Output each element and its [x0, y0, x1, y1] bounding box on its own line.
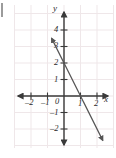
y-tick-label-neg1: –1: [50, 108, 59, 117]
y-tick-label-1: 1: [54, 75, 58, 84]
y-tick-label-neg2: –2: [50, 124, 59, 133]
x-tick-label-neg2: –2: [25, 98, 34, 107]
y-tick-label-3: 3: [54, 41, 58, 50]
graph-figure: y x 0 –2 –1 1 2 4 3 2 1 –1 –2: [0, 0, 116, 158]
x-tick-label-neg1: –1: [41, 98, 50, 107]
origin-label: 0: [55, 97, 59, 106]
y-axis-label: y: [53, 4, 57, 13]
y-tick-label-2: 2: [54, 58, 58, 67]
x-tick-label-1: 1: [78, 99, 82, 108]
y-tick-label-4: 4: [54, 25, 58, 34]
plotted-line: [52, 38, 103, 140]
x-axis-label: x: [104, 95, 108, 104]
x-tick-label-2: 2: [94, 99, 98, 108]
